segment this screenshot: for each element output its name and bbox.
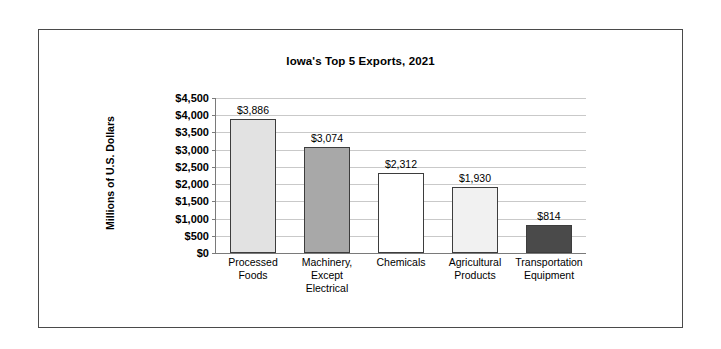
y-axis-tick-label: $1,000 (175, 213, 209, 225)
bar-slot: $814 (512, 98, 586, 253)
chart-frame: Iowa's Top 5 Exports, 2021 Millions of U… (38, 29, 683, 328)
x-axis-category-label-line: Electrical (290, 282, 364, 295)
y-axis-tick-label: $2,000 (175, 178, 209, 190)
x-axis-category-label-line: Processed (216, 256, 290, 269)
plot-area: $3,886$3,074$2,312$1,930$814 (216, 98, 586, 253)
y-axis-tick-label: $3,000 (175, 144, 209, 156)
x-axis-category-label-line: Foods (216, 269, 290, 282)
bar-slot: $1,930 (438, 98, 512, 253)
bar-series: $3,886$3,074$2,312$1,930$814 (216, 98, 586, 253)
x-axis-category-label-line: Chemicals (364, 256, 438, 269)
x-axis-category-label-line: Transportation (512, 256, 586, 269)
chart-page: Iowa's Top 5 Exports, 2021 Millions of U… (0, 0, 721, 349)
y-axis-tick-label: $500 (185, 230, 209, 242)
y-axis-tick (212, 115, 216, 116)
y-axis-title-label: Millions of U.S. Dollars (104, 116, 116, 230)
bar-slot: $3,886 (216, 98, 290, 253)
x-axis-category-labels: ProcessedFoodsMachinery,ExceptElectrical… (216, 256, 586, 318)
y-axis-tick (212, 253, 216, 254)
y-axis-tick-labels: $0$500$1,000$1,500$2,000$2,500$3,000$3,5… (129, 98, 213, 253)
x-axis-category-label: TransportationEquipment (512, 256, 586, 282)
bar[interactable] (452, 187, 498, 253)
bar[interactable] (378, 173, 424, 253)
x-axis-category-label-line: Machinery, (290, 256, 364, 269)
bar-value-label: $3,886 (237, 104, 269, 116)
bar-value-label: $1,930 (459, 172, 491, 184)
x-axis-category-label: AgriculturalProducts (438, 256, 512, 282)
bar[interactable] (230, 119, 276, 253)
bar-value-label: $814 (537, 210, 560, 222)
y-axis-tick-label: $2,500 (175, 161, 209, 173)
y-axis-tick (212, 150, 216, 151)
y-axis-title: Millions of U.S. Dollars (101, 85, 119, 260)
y-axis-tick-label: $3,500 (175, 126, 209, 138)
y-axis-tick-label: $4,000 (175, 109, 209, 121)
y-axis-tick (212, 201, 216, 202)
y-axis-tick (212, 132, 216, 133)
y-axis-tick (212, 167, 216, 168)
y-axis-tick (212, 219, 216, 220)
bar-slot: $3,074 (290, 98, 364, 253)
y-axis-tick (212, 184, 216, 185)
x-axis-category-label-line: Except (290, 269, 364, 282)
y-axis-tick (212, 236, 216, 237)
x-axis-category-label-line: Equipment (512, 269, 586, 282)
bar[interactable] (526, 225, 572, 253)
x-axis-category-label-line: Agricultural (438, 256, 512, 269)
bar-value-label: $3,074 (311, 132, 343, 144)
chart-title: Iowa's Top 5 Exports, 2021 (39, 55, 682, 67)
x-axis-category-label: Chemicals (364, 256, 438, 269)
y-axis-tick (212, 98, 216, 99)
gridline (216, 253, 586, 254)
x-axis-category-label-line: Products (438, 269, 512, 282)
y-axis-tick-label: $1,500 (175, 195, 209, 207)
x-axis-category-label: ProcessedFoods (216, 256, 290, 282)
bar-slot: $2,312 (364, 98, 438, 253)
y-axis-tick-label: $4,500 (175, 92, 209, 104)
y-axis-tick-label: $0 (197, 247, 209, 259)
x-axis-category-label: Machinery,ExceptElectrical (290, 256, 364, 295)
bar[interactable] (304, 147, 350, 253)
bar-value-label: $2,312 (385, 158, 417, 170)
